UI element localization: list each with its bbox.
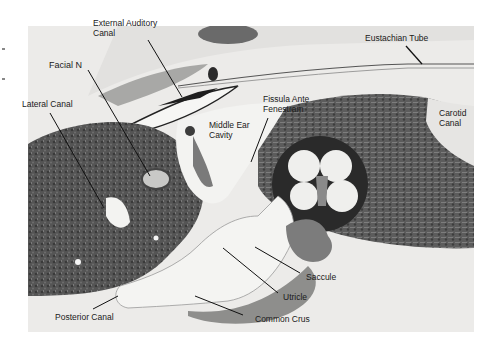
pointer-facial-n — [88, 70, 150, 176]
pointer-lateral-canal — [50, 113, 104, 208]
label-lateral-canal: Lateral Canal — [22, 99, 73, 109]
label-line: External Auditory — [93, 18, 157, 28]
label-line: Eustachian Tube — [365, 33, 428, 43]
label-line: Facial N — [49, 60, 82, 70]
pointer-common-crus — [195, 296, 243, 315]
label-line: Fenestram — [263, 104, 309, 114]
pointer-utricle — [223, 248, 278, 293]
label-posterior-canal: Posterior Canal — [55, 312, 114, 322]
pointer-fissula — [251, 118, 268, 162]
pointer-posterior-canal — [93, 296, 118, 309]
label-line: Canal — [93, 28, 157, 38]
label-utricle: Utricle — [283, 292, 307, 302]
label-facial-n: Facial N — [49, 60, 82, 70]
label-line: Saccule — [306, 272, 336, 282]
label-line: Fissula Ante — [263, 94, 309, 104]
label-middle-ear-cavity: Middle Ear Cavity — [209, 120, 250, 140]
label-line: Posterior Canal — [55, 312, 114, 322]
label-fissula-ante-fenestram: Fissula Ante Fenestram — [263, 94, 309, 114]
label-line: Common Crus — [255, 314, 310, 324]
label-line: Utricle — [283, 292, 307, 302]
label-line: Canal — [439, 118, 466, 128]
pointer-eustachian-tube — [406, 46, 422, 64]
label-carotid-canal: Carotid Canal — [439, 108, 466, 128]
label-common-crus: Common Crus — [255, 314, 310, 324]
label-line: Lateral Canal — [22, 99, 73, 109]
pointer-external-auditory-canal — [148, 40, 182, 97]
label-line: Cavity — [209, 130, 250, 140]
histology-figure: External Auditory Canal Facial N Lateral… — [0, 0, 493, 348]
label-saccule: Saccule — [306, 272, 336, 282]
label-external-auditory-canal: External Auditory Canal — [93, 18, 157, 38]
label-line: Middle Ear — [209, 120, 250, 130]
label-line: Carotid — [439, 108, 466, 118]
pointer-lines — [0, 0, 493, 348]
pointer-saccule — [255, 247, 300, 273]
label-eustachian-tube: Eustachian Tube — [365, 33, 428, 43]
